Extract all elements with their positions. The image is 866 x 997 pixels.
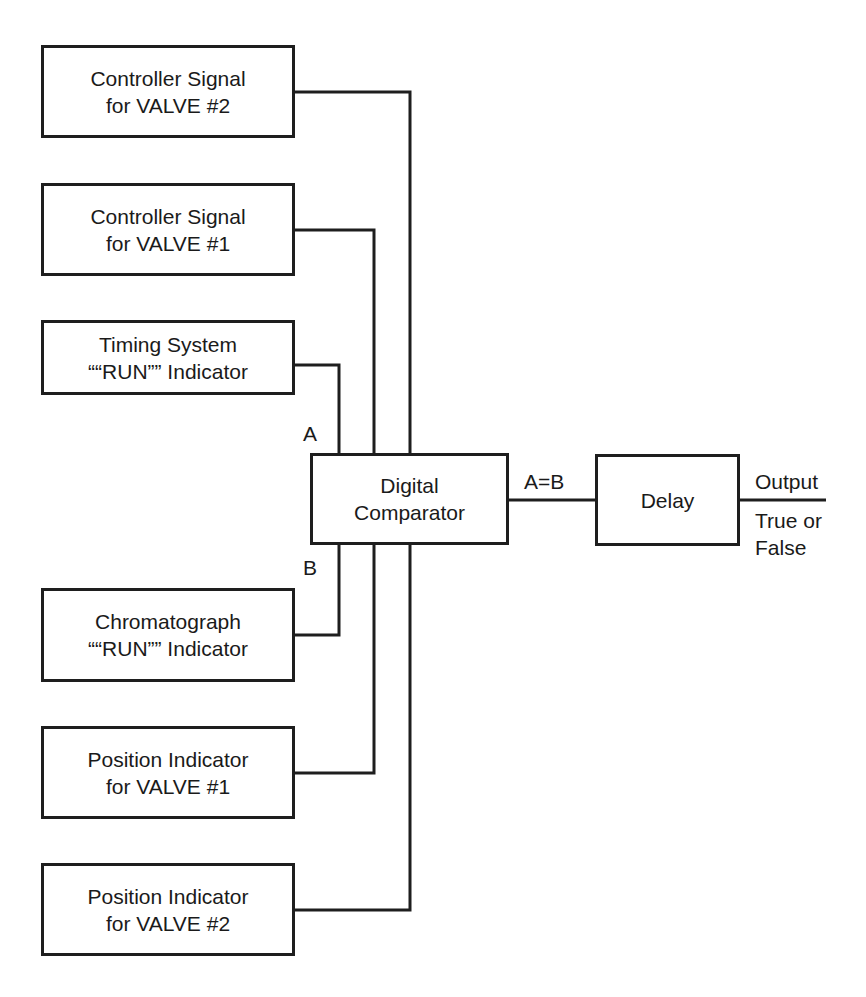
controller-signal-valve2-box: Controller Signal for VALVE #2 <box>41 45 295 138</box>
box-label-line1: Controller Signal <box>90 65 245 92</box>
comparator-label-line1: Digital <box>380 472 438 499</box>
delay-box: Delay <box>595 454 740 546</box>
box-label-line1: Chromatograph <box>95 608 241 635</box>
box-label-line2: for VALVE #2 <box>106 92 230 119</box>
output-label: Output <box>755 470 818 494</box>
box-label-line2: ““RUN”” Indicator <box>88 358 248 385</box>
box-label-line2: ““RUN”” Indicator <box>88 635 248 662</box>
input-b-label: B <box>303 556 317 580</box>
box-label-line2: for VALVE #2 <box>106 910 230 937</box>
digital-comparator-box: Digital Comparator <box>310 453 509 545</box>
box-label-line2: for VALVE #1 <box>106 773 230 800</box>
comparator-label-line2: Comparator <box>354 499 465 526</box>
box-label-line1: Controller Signal <box>90 203 245 230</box>
timing-system-run-indicator-box: Timing System ““RUN”” Indicator <box>41 320 295 395</box>
true-or-label: True or <box>755 509 822 533</box>
box-label-line1: Position Indicator <box>87 883 248 910</box>
input-a-label: A <box>303 422 317 446</box>
box-label-line1: Position Indicator <box>87 746 248 773</box>
delay-label: Delay <box>641 487 695 514</box>
box-label-line1: Timing System <box>99 331 237 358</box>
false-label: False <box>755 536 806 560</box>
controller-signal-valve1-box: Controller Signal for VALVE #1 <box>41 183 295 276</box>
position-indicator-valve1-box: Position Indicator for VALVE #1 <box>41 726 295 819</box>
a-equals-b-label: A=B <box>524 470 564 494</box>
position-indicator-valve2-box: Position Indicator for VALVE #2 <box>41 863 295 956</box>
box-label-line2: for VALVE #1 <box>106 230 230 257</box>
chromatograph-run-indicator-box: Chromatograph ““RUN”” Indicator <box>41 588 295 682</box>
